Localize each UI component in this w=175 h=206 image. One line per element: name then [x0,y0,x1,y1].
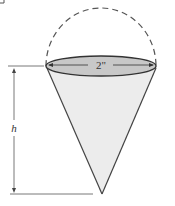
height-label: h [11,122,17,134]
corner-mark [0,0,4,3]
cone-body [47,67,156,194]
cone-diagram: 2" h [0,0,175,206]
arrowhead-up-icon [12,68,16,73]
arrowhead-down-icon [12,188,16,193]
diameter-label: 2" [96,59,106,71]
